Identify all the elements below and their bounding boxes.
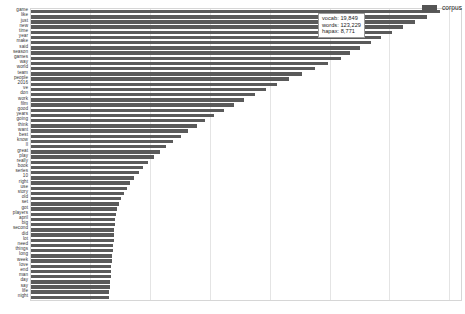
bar-chart: corpus gamelikejustnewtimeyearmakesaidse… <box>0 0 465 314</box>
bar[interactable] <box>31 103 234 106</box>
bar[interactable] <box>31 259 112 262</box>
tooltip-row-words: words: 123,229 <box>322 22 361 29</box>
bar[interactable] <box>31 10 440 13</box>
bar[interactable] <box>31 93 255 96</box>
bar[interactable] <box>31 46 360 49</box>
bar[interactable] <box>31 296 109 299</box>
bar[interactable] <box>31 218 115 221</box>
bar[interactable] <box>31 88 266 91</box>
plot-area <box>30 8 462 301</box>
bar[interactable] <box>31 290 109 293</box>
bar[interactable] <box>31 77 289 80</box>
bar[interactable] <box>31 57 341 60</box>
bar[interactable] <box>31 202 119 205</box>
bar[interactable] <box>31 51 350 54</box>
bar[interactable] <box>31 98 244 101</box>
bar[interactable] <box>31 129 188 132</box>
bar[interactable] <box>31 265 111 268</box>
bar[interactable] <box>31 213 116 216</box>
bar[interactable] <box>31 249 113 252</box>
bar[interactable] <box>31 145 166 148</box>
bar[interactable] <box>31 244 113 247</box>
bar[interactable] <box>31 270 111 273</box>
bar[interactable] <box>31 67 315 70</box>
bar[interactable] <box>31 109 224 112</box>
bar[interactable] <box>31 150 160 153</box>
y-axis-labels: gamelikejustnewtimeyearmakesaidseasongam… <box>0 8 28 301</box>
y-axis-label: know <box>0 138 28 143</box>
bar[interactable] <box>31 228 114 231</box>
bars-container <box>31 9 461 300</box>
bar[interactable] <box>31 192 124 195</box>
bar[interactable] <box>31 254 112 257</box>
bar[interactable] <box>31 280 110 283</box>
bar[interactable] <box>31 83 277 86</box>
bar[interactable] <box>31 140 173 143</box>
bar[interactable] <box>31 72 302 75</box>
bar[interactable] <box>31 275 111 278</box>
bar[interactable] <box>31 161 148 164</box>
bar[interactable] <box>31 155 154 158</box>
bar[interactable] <box>31 285 110 288</box>
bar[interactable] <box>31 233 114 236</box>
bar[interactable] <box>31 15 427 18</box>
bar[interactable] <box>31 114 214 117</box>
data-tooltip: vocab: 19,849 words: 123,229 hapax: 8,77… <box>318 13 365 38</box>
bar[interactable] <box>31 119 205 122</box>
bar[interactable] <box>31 124 197 127</box>
bar[interactable] <box>31 181 130 184</box>
bar[interactable] <box>31 171 139 174</box>
bar[interactable] <box>31 41 371 44</box>
bar[interactable] <box>31 197 121 200</box>
bar[interactable] <box>31 176 134 179</box>
tooltip-row-vocab: vocab: 19,849 <box>322 15 361 22</box>
y-axis-label: night <box>0 294 28 299</box>
tooltip-row-hapax: hapax: 8,771 <box>322 28 361 35</box>
chart-legend: corpus <box>422 2 462 14</box>
bar[interactable] <box>31 223 115 226</box>
bar[interactable] <box>31 135 181 138</box>
bar[interactable] <box>31 187 127 190</box>
legend-label-corpus: corpus <box>442 5 462 12</box>
bar[interactable] <box>31 239 114 242</box>
bar[interactable] <box>31 166 143 169</box>
legend-swatch-corpus <box>422 5 437 12</box>
bar[interactable] <box>31 62 328 65</box>
bar[interactable] <box>31 207 117 210</box>
